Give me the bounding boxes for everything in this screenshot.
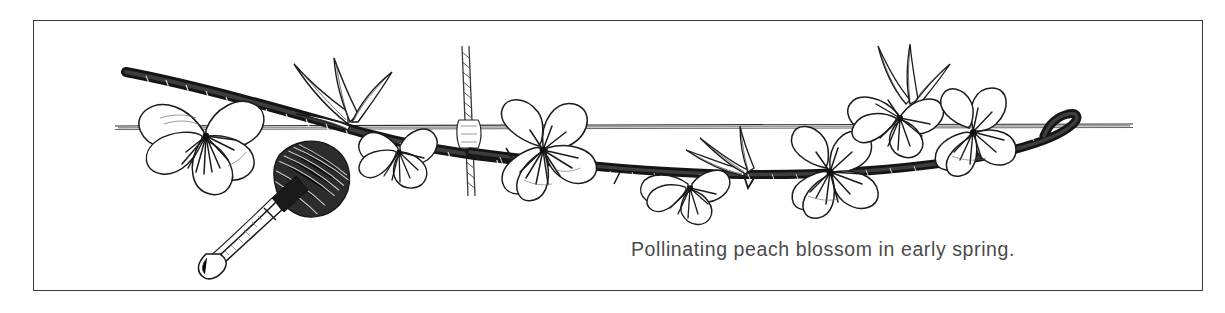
figure-root: Pollinating peach blossom in early sprin…	[0, 0, 1225, 313]
figure-frame-border	[33, 20, 1203, 291]
figure-caption: Pollinating peach blossom in early sprin…	[631, 238, 1015, 261]
